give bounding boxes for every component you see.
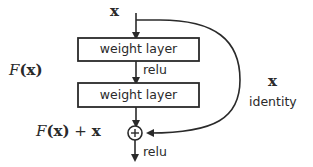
relu-label-inner: relu <box>143 64 167 77</box>
residual-function-label: F(x) <box>9 63 43 78</box>
fx-arg: (x) <box>46 122 69 140</box>
weight-layer-label-2: weight layer <box>78 89 199 102</box>
sum-x: x <box>92 122 101 140</box>
residual-block-diagram: x weight layer relu weight layer F(x) F(… <box>0 0 313 167</box>
input-x-label: x <box>110 4 119 19</box>
fx-arg: (x) <box>19 61 42 79</box>
sum-output-label: F(x) + x <box>36 124 101 139</box>
identity-x-label: x <box>268 74 277 89</box>
plus-sign: + <box>70 122 92 140</box>
script-f: F <box>36 122 46 140</box>
identity-label: identity <box>249 96 297 109</box>
diagram-graphics <box>0 0 313 167</box>
script-f: F <box>9 61 19 79</box>
weight-layer-label-1: weight layer <box>78 43 199 56</box>
relu-label-output: relu <box>143 146 167 159</box>
